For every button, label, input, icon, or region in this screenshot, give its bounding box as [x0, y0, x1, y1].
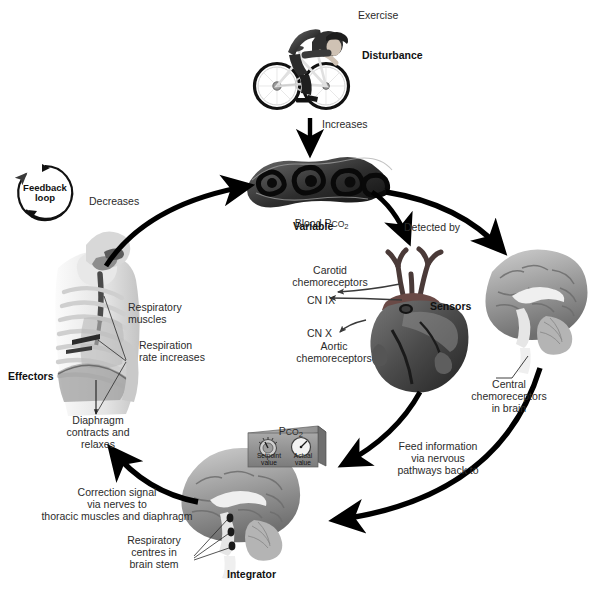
heart-great-vessels-illustration — [370, 249, 468, 392]
label-sensors: Sensors — [430, 300, 471, 312]
label-respiration-rate: Respiration rate increases — [139, 339, 205, 363]
thorax-ribcage-diaphragm-illustration — [55, 232, 139, 417]
label-actual-value: Actual value — [282, 452, 324, 467]
label-cn-ix: CN IX — [307, 294, 335, 306]
label-box-prefix: P — [279, 425, 286, 437]
label-effectors: Effectors — [8, 370, 54, 382]
arrow-detected-by — [372, 192, 408, 240]
label-diaphragm: Diaphragm contracts and relaxes — [56, 414, 140, 450]
feedback-loop-badge: Feedback loop — [12, 160, 78, 226]
label-disturbance: Disturbance — [362, 49, 423, 61]
label-correction-signal: Correction signal via nerves to thoracic… — [14, 486, 220, 522]
label-increases: Increases — [322, 118, 368, 130]
lungs-bronchi-illustration — [247, 157, 392, 207]
label-feed-information: Feed information via nervous pathways ba… — [378, 440, 498, 476]
feedback-loop-line2: loop — [35, 193, 55, 204]
feedback-loop-diagram: Feedback loop Exercise Disturbance Incre… — [0, 0, 594, 589]
figure-caption-sliver — [0, 581, 594, 589]
label-respiratory-muscles: Respiratory muscles — [128, 301, 182, 325]
feedback-loop-text: Feedback loop — [12, 160, 78, 226]
brain-sagittal-illustration-right — [485, 249, 587, 374]
label-integrator: Integrator — [227, 568, 276, 580]
arrow-cn-x — [340, 320, 366, 332]
label-blood-smallcaps: CO — [331, 219, 344, 229]
label-detected-by: Detected by — [404, 221, 460, 233]
label-pco2-box-title: PCO2 — [255, 413, 315, 453]
label-exercise: Exercise — [358, 9, 398, 21]
label-aortic-chemoreceptors: Aortic chemoreceptors — [286, 340, 382, 364]
label-decreases: Decreases — [89, 195, 139, 207]
label-box-sub: 2 — [299, 430, 303, 439]
label-variable: Variable — [293, 220, 333, 232]
label-carotid-chemoreceptors: Carotid chemoreceptors — [282, 264, 378, 288]
label-box-smallcaps: CO — [286, 427, 299, 437]
label-central-chemoreceptors: Central chemoreceptors in brain — [463, 378, 555, 414]
cyclist-illustration — [255, 29, 349, 108]
label-cn-x: CN X — [307, 327, 332, 339]
label-respiratory-centres: Respiratory centres in brain stem — [114, 534, 194, 570]
label-blood-sub: 2 — [344, 222, 348, 231]
